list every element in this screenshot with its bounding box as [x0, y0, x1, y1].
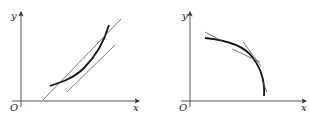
right-crossing-line-1: [243, 42, 261, 66]
right-curve: [205, 38, 264, 96]
left-x-label: x: [133, 102, 139, 113]
right-origin-label: O: [179, 102, 187, 113]
right-y-label: y: [181, 10, 188, 21]
left-figure: y O x: [10, 10, 139, 113]
left-origin-label: O: [10, 102, 18, 113]
right-x-label: x: [301, 102, 307, 113]
figure-canvas: y O x y O x: [0, 0, 309, 125]
left-tangent-line: [67, 45, 115, 92]
left-curve: [50, 25, 109, 86]
right-figure: y O x: [179, 10, 307, 113]
left-secant-line: [43, 19, 121, 100]
left-y-label: y: [10, 10, 17, 21]
